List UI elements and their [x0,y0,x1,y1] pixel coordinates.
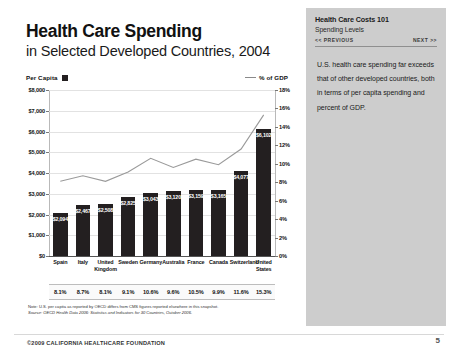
chart-notes: Note: U.S. per capita as reported by OEC… [28,304,278,317]
x-axis-label: United Kingdom [94,259,117,273]
pct-gdp-line-series [49,90,275,256]
y-axis-right-tick-mark [275,108,278,109]
y-axis-right-tick-mark [275,219,278,220]
slide-panel: Health Care Spending in Selected Develop… [0,0,300,359]
y-axis-right-tick-label: 14% [279,124,290,130]
legend-pct-gdp-label: % of GDP [259,74,288,81]
sidebar-subtitle: Spending Levels [315,26,437,33]
y-axis-left-tick-label: $4,000 [28,170,45,176]
legend-line-swatch-icon [245,77,256,78]
page-subtitle: in Selected Developed Countries, 2004 [26,43,291,60]
sidebar-body-text: U.S. health care spending far exceeds th… [317,58,435,115]
footer-divider [14,334,444,335]
y-axis-left-tick-mark [46,256,49,257]
gdp-percent-cell: 8.1% [49,285,72,299]
y-axis-right-tick-label: 12% [279,142,290,148]
previous-link[interactable]: << PREVIOUS [315,37,354,43]
gdp-percent-cell: 8.7% [72,285,95,299]
gdp-percent-cell: 9.6% [162,285,185,299]
y-axis-right-tick-label: 4% [279,216,287,222]
y-axis-left-tick-label: $0 [39,253,45,259]
gdp-percent-cell: 15.3% [252,285,275,299]
title-block: Health Care Spending in Selected Develop… [26,22,291,59]
x-axis-label: Canada [207,259,230,266]
y-axis-left-tick-label: $8,000 [28,87,45,93]
legend-pct-gdp: % of GDP [245,74,288,81]
y-axis-left-tick-label: $5,000 [28,149,45,155]
y-axis-left-tick-label: $3,000 [28,191,45,197]
gdp-percent-cell: 10.6% [139,285,162,299]
y-axis-left-tick-label: $7,000 [28,108,45,114]
sidebar-panel: Health Care Costs 101 Spending Levels <<… [306,8,446,326]
y-axis-left-tick-label: $6,000 [28,129,45,135]
sidebar-title: Health Care Costs 101 [315,15,437,24]
y-axis-right-tick-mark [275,127,278,128]
x-axis-label: Sweden [117,259,140,266]
x-axis-label: United States [252,259,275,273]
x-axis-label: Italy [72,259,95,266]
y-axis-right-tick-mark [275,90,278,91]
y-axis-left-tick-label: $2,000 [28,212,45,218]
legend-per-capita: Per Capita [26,74,68,81]
x-axis-label: France [185,259,208,266]
gdp-percent-row: 8.1%8.7%8.1%9.1%10.6%9.6%10.5%9.9%11.6%1… [49,284,275,300]
y-axis-right-tick-label: 6% [279,198,287,204]
sidebar-header: Health Care Costs 101 Spending Levels [306,8,446,33]
y-axis-right [275,90,276,256]
x-axis-label: Australia [162,259,185,266]
next-link[interactable]: NEXT >> [413,37,437,43]
chart-plot-area: $0$1,000$2,000$3,000$4,000$5,000$6,000$7… [49,90,275,256]
x-axis-label: Switzerland [230,259,253,266]
footer-credit: ©2009 CALIFORNIA HEALTHCARE FOUNDATION [27,340,165,346]
y-axis-right-tick-label: 10% [279,161,290,167]
x-axis-label: Spain [49,259,72,266]
chart-source: Source: OECD Health Data 2006: Statistic… [28,310,278,316]
y-axis-right-tick-label: 2% [279,235,287,241]
y-axis-right-tick-label: 8% [279,179,287,185]
y-axis-right-tick-label: 0% [279,253,287,259]
y-axis-right-tick-label: 16% [279,105,290,111]
y-axis-right-tick-mark [275,238,278,239]
gdp-percent-cell: 9.1% [117,285,140,299]
page-title: Health Care Spending [26,22,291,42]
gdp-percent-cell: 9.9% [207,285,230,299]
legend-per-capita-label: Per Capita [26,74,58,81]
y-axis-right-tick-mark [275,201,278,202]
x-axis-labels: SpainItalyUnited KingdomSwedenGermanyAus… [49,259,275,281]
x-axis-label: Germany [139,259,162,266]
page-number: 5 [436,336,440,345]
x-axis [49,256,276,257]
y-axis-right-tick-mark [275,145,278,146]
gdp-percent-cell: 8.1% [94,285,117,299]
y-axis-right-tick-label: 18% [279,87,290,93]
gdp-percent-cell: 10.5% [185,285,208,299]
sidebar-nav: << PREVIOUS NEXT >> [315,37,437,47]
y-axis-right-tick-mark [275,182,278,183]
y-axis-right-tick-mark [275,256,278,257]
y-axis-left-tick-label: $1,000 [28,232,45,238]
y-axis-right-tick-mark [275,164,278,165]
gdp-percent-cell: 11.6% [230,285,253,299]
legend-bar-swatch-icon [62,75,68,81]
